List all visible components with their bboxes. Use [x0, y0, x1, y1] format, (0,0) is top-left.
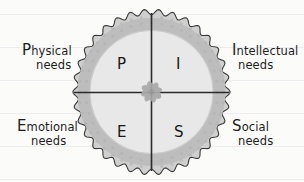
quadrant-letter-i: I [176, 57, 180, 72]
label-physical-rest: hysical [31, 44, 72, 58]
label-emotional-capital: E [17, 117, 27, 135]
quadrant-letter-e: E [117, 125, 126, 140]
label-emotional-rest: motional [27, 120, 78, 134]
label-social-capital: S [232, 117, 242, 135]
diagram-page: Physical needs Intellectual needs Emotio… [0, 0, 304, 182]
label-social-needs: Social needs [232, 120, 273, 148]
label-physical-needs: Physical needs [22, 44, 72, 72]
pies-circle-diagram [0, 0, 304, 182]
label-social-line2: needs [232, 135, 273, 149]
quadrant-letter-p: P [117, 57, 126, 72]
quadrant-letter-s: S [174, 125, 184, 140]
label-physical-capital: P [22, 41, 31, 59]
label-emotional-line2: needs [17, 135, 78, 149]
label-intellectual-line2: needs [232, 59, 298, 73]
label-intellectual-rest: ntellectual [237, 44, 299, 58]
label-emotional-needs: Emotional needs [17, 120, 78, 148]
label-social-rest: ocial [242, 120, 269, 134]
label-physical-line2: needs [22, 59, 72, 73]
label-intellectual-needs: Intellectual needs [232, 44, 298, 72]
